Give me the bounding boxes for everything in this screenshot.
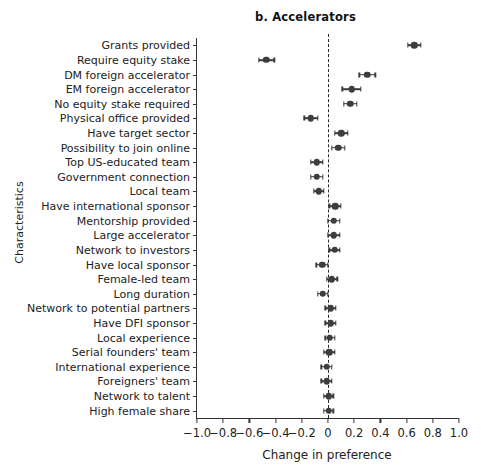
confidence-interval-cap xyxy=(339,247,340,252)
estimate-point xyxy=(326,349,333,356)
confidence-interval-cap xyxy=(313,189,314,194)
x-tick-mark xyxy=(223,418,224,423)
y-tick-mark xyxy=(193,250,197,251)
y-tick-mark xyxy=(193,235,197,236)
confidence-interval-cap xyxy=(326,277,327,282)
estimate-point xyxy=(319,261,326,268)
x-tick-mark xyxy=(301,418,302,423)
confidence-interval-cap xyxy=(323,189,324,194)
y-tick-mark xyxy=(193,162,197,163)
confidence-interval-cap xyxy=(317,116,318,121)
confidence-interval-cap xyxy=(407,43,408,48)
x-tick-label: 1.0 xyxy=(450,426,468,440)
confidence-interval-cap xyxy=(327,233,328,238)
confidence-interval-cap xyxy=(331,364,332,369)
y-tick-label: Serial founders' team xyxy=(72,347,190,358)
y-tick-label: Government connection xyxy=(57,171,190,182)
y-tick-label: Long duration xyxy=(114,288,190,299)
confidence-interval-cap xyxy=(316,262,317,267)
estimate-point xyxy=(329,276,336,283)
confidence-interval-cap xyxy=(327,291,328,296)
x-tick-mark xyxy=(327,418,328,423)
estimate-point xyxy=(364,71,371,78)
confidence-interval-cap xyxy=(331,379,332,384)
y-tick-label: Female-led team xyxy=(97,274,190,285)
estimate-point xyxy=(314,174,321,181)
confidence-interval-cap xyxy=(325,306,326,311)
estimate-point xyxy=(327,334,334,341)
confidence-interval-cap xyxy=(310,160,311,165)
confidence-interval-cap xyxy=(374,72,375,77)
y-tick-mark xyxy=(193,75,197,76)
y-tick-label: Have DFI sponsor xyxy=(93,318,190,329)
x-tick-mark xyxy=(196,418,197,423)
y-tick-mark xyxy=(193,323,197,324)
confidence-interval-cap xyxy=(329,247,330,252)
estimate-point xyxy=(327,305,334,312)
confidence-interval-cap xyxy=(420,43,421,48)
confidence-interval-cap xyxy=(343,101,344,106)
estimate-point xyxy=(320,291,327,298)
plot-area: Grants providedRequire equity stakeDM fo… xyxy=(197,38,459,418)
confidence-interval-cap xyxy=(274,57,275,62)
estimate-point xyxy=(331,217,338,224)
y-tick-label: DM foreign accelerator xyxy=(64,69,190,80)
y-tick-label: Foreigners' team xyxy=(97,376,190,387)
x-tick-label: 0 xyxy=(324,426,331,440)
estimate-point xyxy=(323,378,330,385)
y-tick-mark xyxy=(193,308,197,309)
confidence-interval-cap xyxy=(322,174,323,179)
y-tick-mark xyxy=(193,177,197,178)
confidence-interval-cap xyxy=(333,408,334,413)
x-tick-mark xyxy=(380,418,381,423)
confidence-interval-cap xyxy=(344,145,345,150)
x-tick-label: 0.4 xyxy=(371,426,389,440)
y-tick-mark xyxy=(193,396,197,397)
y-tick-label: Local experience xyxy=(97,332,190,343)
confidence-interval-cap xyxy=(360,87,361,92)
estimate-point xyxy=(348,86,355,93)
y-tick-label: Grants provided xyxy=(101,40,190,51)
x-tick-mark xyxy=(406,418,407,423)
confidence-interval-cap xyxy=(342,87,343,92)
y-tick-mark xyxy=(193,118,197,119)
y-tick-label: International experience xyxy=(55,361,190,372)
y-tick-mark xyxy=(193,45,197,46)
chart-title: b. Accelerators xyxy=(0,10,481,24)
estimate-point xyxy=(325,407,332,414)
x-tick-mark xyxy=(354,418,355,423)
y-tick-label: No equity stake required xyxy=(54,98,190,109)
confidence-interval-cap xyxy=(356,101,357,106)
estimate-point xyxy=(331,247,338,254)
y-tick-label: Top US-educated team xyxy=(65,157,190,168)
confidence-interval-cap xyxy=(258,57,259,62)
x-tick-mark xyxy=(458,418,459,423)
x-tick-label: 0.2 xyxy=(345,426,363,440)
confidence-interval-cap xyxy=(339,218,340,223)
estimate-point xyxy=(332,203,339,210)
confidence-interval-cap xyxy=(317,291,318,296)
y-tick-label: Mentorship provided xyxy=(77,215,190,226)
y-tick-mark xyxy=(193,104,197,105)
confidence-interval-cap xyxy=(333,394,334,399)
y-tick-mark xyxy=(193,411,197,412)
confidence-interval-cap xyxy=(327,262,328,267)
y-tick-label: High female share xyxy=(89,405,190,416)
x-tick-label: 0.8 xyxy=(424,426,442,440)
y-tick-label: Network to investors xyxy=(76,244,190,255)
figure-panel: b. Accelerators Characteristics Grants p… xyxy=(0,0,481,475)
estimate-point xyxy=(316,188,323,195)
y-tick-mark xyxy=(193,367,197,368)
y-tick-mark xyxy=(193,265,197,266)
y-tick-mark xyxy=(193,352,197,353)
estimate-point xyxy=(335,144,342,151)
confidence-interval-cap xyxy=(322,160,323,165)
x-tick-label: −1.0 xyxy=(183,426,211,440)
y-tick-mark xyxy=(193,133,197,134)
y-tick-mark xyxy=(193,338,197,339)
confidence-interval-cap xyxy=(335,306,336,311)
y-tick-mark xyxy=(193,148,197,149)
x-tick-label: −0.8 xyxy=(209,426,237,440)
confidence-interval-cap xyxy=(327,218,328,223)
confidence-interval-cap xyxy=(321,364,322,369)
